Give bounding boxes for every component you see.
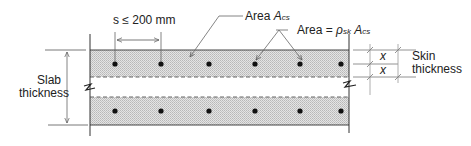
bottom-skin-band xyxy=(90,97,349,125)
rebar-dot xyxy=(297,108,302,113)
rebar-dot xyxy=(206,61,211,66)
rebar-dot xyxy=(338,108,343,113)
area-rho-prefix: Area = xyxy=(297,23,336,37)
skin-x-top: x xyxy=(380,50,386,63)
slab-thickness-line2: thickness xyxy=(19,87,61,100)
area-rho-subscript: sk xyxy=(343,27,351,36)
area-acs-label: Area Acs xyxy=(245,10,290,24)
skin-thickness-line2: thickness xyxy=(412,63,462,76)
rebar-dot xyxy=(158,61,163,66)
area-acs-symbol: A xyxy=(274,9,282,23)
rebar-dot xyxy=(338,61,343,66)
area-rho-subscript2: cs xyxy=(362,27,370,36)
rebar-dot xyxy=(252,108,257,113)
slab-section-diagram xyxy=(0,0,471,146)
skin-thickness-label: Skin thickness xyxy=(412,50,462,76)
rebar-dot xyxy=(112,61,117,66)
spacing-label: s ≤ 200 mm xyxy=(113,14,176,27)
slab-thickness-label: Slab thickness xyxy=(19,74,61,100)
rebar-dot xyxy=(158,108,163,113)
rebar-dot xyxy=(252,61,257,66)
top-skin-band xyxy=(90,50,349,77)
skin-x-bottom: x xyxy=(380,64,386,77)
rebar-dot xyxy=(112,108,117,113)
area-acs-subscript: cs xyxy=(282,13,290,22)
area-acs-prefix: Area xyxy=(245,9,274,23)
rebar-dot xyxy=(206,108,211,113)
area-rho-label: Area = ρsk Acs xyxy=(297,24,370,38)
rebar-dot xyxy=(297,61,302,66)
area-rho-symbol: ρ xyxy=(336,23,343,37)
